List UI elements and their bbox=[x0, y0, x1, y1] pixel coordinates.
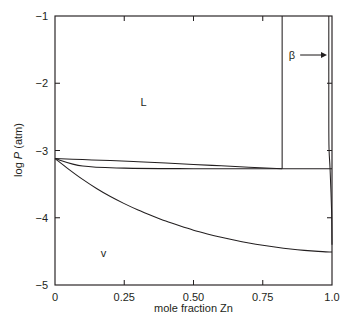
beta-region-label: β bbox=[289, 49, 295, 61]
x-tick-label-3: 0.75 bbox=[252, 291, 273, 303]
y-axis-ticks-left bbox=[55, 83, 60, 218]
y-axis-title-suffix: (atm) bbox=[12, 123, 24, 152]
curve-vapor-curve bbox=[55, 159, 332, 252]
y-tick-label-4: −5 bbox=[35, 279, 48, 291]
y-axis-tick-labels: −1−2−3−4−5 bbox=[35, 10, 48, 291]
x-tick-label-1: 0.25 bbox=[114, 291, 135, 303]
region-annotations: Lvβ bbox=[101, 49, 295, 259]
y-tick-label-2: −3 bbox=[35, 145, 48, 157]
y-tick-label-0: −1 bbox=[35, 10, 48, 22]
phase-diagram-svg: 00.250.500.751.0 −1−2−3−4−5 Lvβ mole fra… bbox=[0, 0, 356, 331]
beta-arrow-head bbox=[321, 52, 327, 58]
y-axis-title-prefix: log bbox=[12, 159, 24, 177]
y-tick-label-3: −4 bbox=[35, 212, 48, 224]
vapor-region-label: v bbox=[101, 247, 107, 259]
x-tick-label-4: 1.0 bbox=[324, 291, 339, 303]
x-axis-title: mole fraction Zn bbox=[154, 302, 233, 314]
y-tick-label-1: −2 bbox=[35, 77, 48, 89]
phase-diagram-figure: 00.250.500.751.0 −1−2−3−4−5 Lvβ mole fra… bbox=[0, 0, 356, 331]
y-axis-title: log P (atm) bbox=[12, 123, 24, 177]
x-tick-label-0: 0 bbox=[52, 291, 58, 303]
x-axis-ticks-bottom bbox=[124, 280, 263, 285]
x-axis-ticks-top bbox=[124, 16, 263, 21]
liquid-region-label: L bbox=[141, 96, 147, 108]
beta-pointer-arrow bbox=[300, 52, 327, 58]
